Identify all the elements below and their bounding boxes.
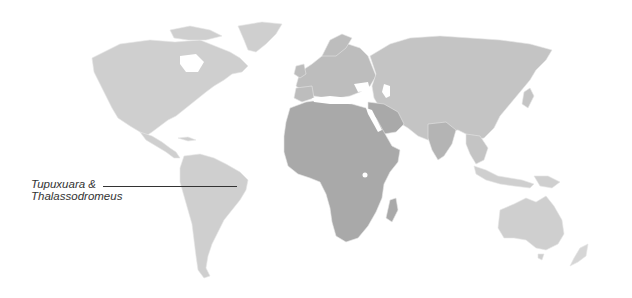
japan — [522, 88, 534, 108]
annotation-line-2: Thalassodromeus — [31, 190, 122, 202]
annotation-label: Tupuxuara & Thalassodromeus — [31, 178, 122, 202]
india — [428, 122, 456, 160]
iberia — [294, 86, 314, 102]
lake-victoria — [363, 173, 368, 178]
tasmania — [538, 254, 544, 260]
world-map — [0, 0, 632, 298]
central-america — [140, 132, 180, 158]
new-guinea — [534, 176, 560, 188]
new-zealand — [570, 244, 588, 266]
north-america — [92, 40, 248, 136]
caribbean — [178, 137, 196, 141]
madagascar — [386, 198, 398, 222]
greenland — [238, 22, 282, 52]
annotation-leader-line — [103, 186, 237, 187]
australia — [498, 196, 564, 250]
south-america — [180, 154, 248, 278]
southeast-asia — [466, 134, 488, 164]
indonesia — [474, 166, 534, 188]
annotation-line-1: Tupuxuara & — [31, 178, 122, 190]
arctic-islands — [170, 26, 222, 40]
